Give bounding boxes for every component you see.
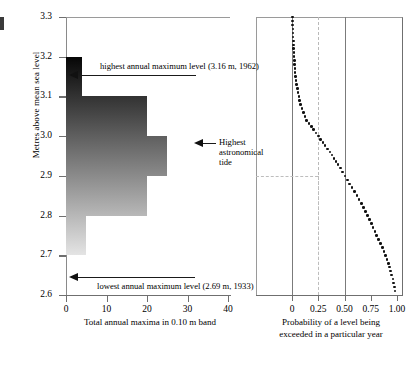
curve-dot bbox=[377, 238, 380, 241]
histogram-x-axis-title: Total annual maxima in 0.10 m band bbox=[62, 317, 238, 327]
curve-dot bbox=[384, 254, 387, 257]
curve-dot bbox=[362, 206, 365, 209]
histogram-x-tick bbox=[228, 295, 229, 302]
y-axis-tick bbox=[59, 17, 66, 18]
y-axis-tick bbox=[59, 216, 66, 217]
curve-dot bbox=[381, 246, 384, 249]
curve-dot bbox=[295, 83, 298, 86]
curve-dot bbox=[375, 234, 378, 237]
lowest-annotation-line bbox=[78, 277, 195, 278]
hat-annotation-line3: tide bbox=[219, 157, 232, 167]
curve-dot bbox=[383, 250, 386, 253]
histogram-x-tick-label: 40 bbox=[215, 304, 241, 314]
curve-dot bbox=[356, 194, 359, 197]
curve-dot bbox=[296, 87, 299, 90]
curve-dot bbox=[298, 99, 301, 102]
y-axis-tick-label: 2.8 bbox=[18, 211, 52, 221]
probability-x-axis-title-line2: exceeded in a particular year bbox=[279, 329, 382, 339]
curve-dot bbox=[294, 67, 297, 70]
histogram-x-tick-label: 10 bbox=[94, 304, 120, 314]
curve-dot bbox=[341, 171, 344, 174]
probability-panel bbox=[256, 17, 401, 295]
curve-dot bbox=[298, 95, 301, 98]
histogram-x-tick-label: 30 bbox=[175, 304, 201, 314]
curve-dot bbox=[294, 75, 297, 78]
probability-x-axis-title-line1: Probability of a level being bbox=[282, 317, 380, 327]
page-edge-mark bbox=[0, 17, 4, 30]
histogram-panel bbox=[66, 17, 229, 295]
hat-horizontal-guide bbox=[256, 176, 318, 177]
y-axis-tick-label: 3.3 bbox=[18, 12, 52, 22]
curve-dot bbox=[339, 167, 342, 170]
probability-x-tick bbox=[318, 295, 319, 301]
probability-frame bbox=[256, 17, 403, 296]
curve-dot bbox=[302, 111, 305, 114]
highest-annotation-arrowhead bbox=[69, 71, 78, 79]
curve-dot bbox=[379, 242, 382, 245]
curve-dot bbox=[299, 103, 302, 106]
y-axis-tick bbox=[59, 176, 66, 177]
histogram-x-tick bbox=[188, 295, 189, 302]
histogram-bar bbox=[66, 96, 147, 136]
curve-dot bbox=[370, 222, 373, 225]
curve-dot bbox=[346, 179, 349, 182]
hat-annotation-line2: astronomical bbox=[219, 147, 263, 157]
chart-figure: 3.33.23.13.02.92.82.72.6 Metres above me… bbox=[0, 0, 415, 368]
curve-dot bbox=[393, 286, 396, 289]
probability-x-tick bbox=[397, 295, 398, 301]
y-axis-tick bbox=[59, 255, 66, 256]
curve-dot bbox=[368, 218, 371, 221]
histogram-x-tick bbox=[107, 295, 108, 302]
histogram-bar bbox=[66, 176, 147, 216]
y-axis-tick bbox=[59, 57, 66, 58]
histogram-x-tick-label: 20 bbox=[134, 304, 160, 314]
hat-annotation-arrowhead bbox=[194, 139, 203, 147]
curve-dot bbox=[386, 258, 389, 261]
hat-annotation-label: Highest astronomical tide bbox=[219, 137, 263, 168]
histogram-x-tick bbox=[66, 295, 67, 302]
probability-x-tick bbox=[292, 295, 293, 301]
curve-dot bbox=[301, 107, 304, 110]
curve-dot bbox=[312, 128, 315, 131]
histogram-x-tick bbox=[147, 295, 148, 302]
hat-annotation-line bbox=[203, 143, 216, 144]
hat-annotation-line1: Highest bbox=[219, 137, 246, 147]
curve-dot bbox=[360, 202, 363, 205]
probability-x-axis-line bbox=[256, 295, 402, 296]
y-axis-tick-label: 2.7 bbox=[18, 250, 52, 260]
curve-dot bbox=[366, 214, 369, 217]
y-axis-tick bbox=[59, 136, 66, 137]
curve-dot bbox=[293, 59, 296, 62]
probability-x-tick bbox=[345, 295, 346, 301]
curve-dot bbox=[292, 40, 295, 43]
curve-dot bbox=[326, 148, 329, 151]
highest-annotation-label: highest annual maximum level (3.16 m, 19… bbox=[100, 61, 259, 71]
y-axis-tick-label: 2.6 bbox=[18, 290, 52, 300]
histogram-bar bbox=[66, 136, 167, 176]
y-axis-tick bbox=[59, 96, 66, 97]
probability-x-tick bbox=[371, 295, 372, 301]
probability-x-tick-label: 1.00 bbox=[381, 304, 413, 314]
probability-x-axis-title: Probability of a level being exceeded in… bbox=[258, 317, 404, 340]
curve-dot bbox=[293, 63, 296, 66]
y-axis-tick bbox=[59, 295, 66, 296]
histogram-bar bbox=[66, 216, 86, 256]
histogram-x-tick-label: 0 bbox=[53, 304, 79, 314]
curve-dot bbox=[387, 262, 390, 265]
y-axis-title: Metres above mean sea level bbox=[31, 25, 41, 185]
prob-half-line bbox=[345, 17, 346, 295]
hat-vertical-guide bbox=[318, 176, 319, 295]
curve-dot bbox=[374, 230, 377, 233]
histogram-x-axis-line bbox=[66, 295, 231, 296]
curve-dot bbox=[348, 183, 351, 186]
lowest-annotation-label: lowest annual maximum level (2.69 m, 193… bbox=[97, 281, 254, 291]
lowest-annotation-arrowhead bbox=[69, 273, 78, 281]
curve-dot bbox=[353, 190, 356, 193]
highest-annotation-line bbox=[78, 75, 196, 76]
curve-dot bbox=[292, 44, 295, 47]
curve-dot bbox=[364, 210, 367, 213]
